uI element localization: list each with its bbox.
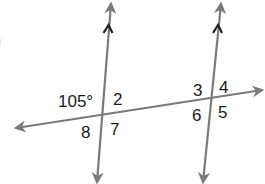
angle-label-105: 105° [58, 93, 93, 110]
angle-label-8: 8 [81, 124, 90, 141]
angle-label-3: 3 [193, 82, 202, 99]
angle-label-6: 6 [192, 107, 201, 124]
angle-label-2: 2 [113, 91, 122, 108]
parallel-lines-diagram: ) 105° 2 8 7 3 4 6 5 [0, 0, 265, 184]
angle-label-4: 4 [219, 79, 228, 96]
partial-parenthesis: ) [0, 27, 2, 53]
angle-label-5: 5 [218, 104, 227, 121]
angle-label-7: 7 [110, 121, 119, 138]
